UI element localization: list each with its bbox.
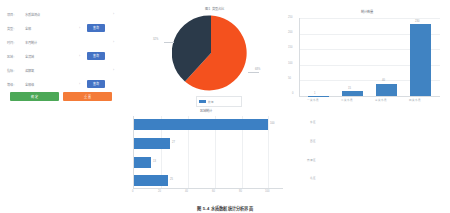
- bar-value-label: 40: [382, 79, 385, 82]
- x-tick-label: 80: [239, 190, 242, 193]
- x-axis-line: [133, 188, 283, 189]
- x-tick-label: 60: [212, 190, 215, 193]
- bar-value-label: 100: [270, 122, 274, 125]
- query-button[interactable]: 查询: [87, 52, 105, 60]
- y-category-label: 东区: [282, 120, 316, 124]
- bar-value-label: 15: [348, 87, 351, 90]
- y-tick-label: 150: [288, 46, 292, 49]
- form-value[interactable]: 全部级: [25, 82, 34, 87]
- x-tick-label: 20: [158, 190, 161, 193]
- bar[interactable]: [134, 119, 268, 130]
- form-row: 等级: 全部级 › 查询: [0, 78, 122, 90]
- form-label: 等级:: [7, 82, 15, 87]
- bar-value-label: 13: [153, 160, 156, 163]
- chevron-right-icon[interactable]: ›: [79, 82, 80, 86]
- bar[interactable]: [376, 84, 397, 97]
- chevron-right-icon[interactable]: ›: [79, 54, 80, 58]
- bar-value-label: 27: [172, 141, 175, 144]
- form-row: 区域: 全流域 › 查询: [0, 50, 122, 62]
- bar-value-label: 1: [314, 92, 315, 95]
- query-button[interactable]: 查询: [87, 24, 105, 32]
- form-row: 指标: 溶解氧 ›: [0, 64, 122, 76]
- bar[interactable]: [134, 138, 170, 149]
- y-category-label: 北区: [282, 176, 316, 180]
- bar-value-label: 230: [415, 20, 419, 23]
- submit-button[interactable]: 确 定: [10, 92, 59, 101]
- bar[interactable]: [342, 91, 363, 96]
- bar-value-label: 25: [170, 178, 173, 181]
- pie-chart-svg[interactable]: [172, 14, 250, 92]
- bar[interactable]: [134, 157, 151, 168]
- horizontal-bar-chart-panel: 区域统计 100 27 13 25 东区 西区 南港区 北区 0 20 40 6…: [96, 100, 316, 200]
- chevron-right-icon[interactable]: ›: [113, 40, 114, 44]
- form-label: 时间:: [7, 40, 15, 45]
- form-label: 区域:: [7, 54, 15, 59]
- x-category-label: 四类水质: [402, 98, 428, 102]
- form-label: 类型:: [7, 26, 15, 31]
- x-axis-line: [299, 96, 440, 97]
- y-category-label: 南港区: [282, 158, 316, 162]
- pie-callout-pass: 32%: [153, 38, 158, 41]
- x-category-label: 二类水质: [334, 98, 360, 102]
- vertical-bar-chart-panel: 统计数量 250 200 150 100 50 0 1 15 40 230 一类…: [284, 4, 450, 104]
- chevron-right-icon[interactable]: ›: [79, 26, 80, 30]
- figure-caption: 图 5-4 水质数据统计分析界面: [0, 205, 450, 211]
- y-tick-label: 200: [288, 31, 292, 34]
- vertical-bar-plot-area: 1 15 40 230: [300, 18, 440, 96]
- y-tick-label: 250: [288, 16, 292, 19]
- x-category-label: 三类水质: [368, 98, 394, 102]
- pie-chart-panel: 图1 类型占比 32% 68%: [150, 0, 280, 100]
- form-label: 项目:: [7, 12, 15, 17]
- query-form-panel: 项目: 水质监测点 › 类型: 全部 › 查询 时间: 本月统计 › 区域: 全…: [0, 0, 122, 110]
- y-tick-label: 0: [292, 92, 293, 95]
- y-tick-label: 50: [288, 77, 291, 80]
- horizontal-bar-chart-legend[interactable]: 数量: [196, 96, 242, 107]
- chevron-right-icon[interactable]: ›: [113, 12, 114, 16]
- horizontal-bar-plot-area: 100 27 13 25: [134, 116, 282, 188]
- form-label: 指标:: [7, 68, 15, 73]
- x-tick-label: 40: [185, 190, 188, 193]
- bar[interactable]: [134, 175, 168, 186]
- form-value[interactable]: 本月统计: [25, 40, 37, 45]
- bar[interactable]: [410, 24, 431, 96]
- form-row: 类型: 全部 › 查询: [0, 22, 122, 34]
- form-row: 时间: 本月统计 ›: [0, 36, 122, 48]
- y-tick-label: 100: [288, 62, 292, 65]
- form-row: 项目: 水质监测点 ›: [0, 8, 122, 20]
- pie-leader-line-left: [164, 42, 174, 43]
- pie-leader-line-right: [248, 72, 259, 73]
- chevron-right-icon[interactable]: ›: [113, 68, 114, 72]
- pie-callout-over: 68%: [255, 68, 260, 71]
- pie-chart-title: 图1 类型占比: [150, 6, 280, 11]
- x-tick-label: 0: [132, 190, 133, 193]
- form-value[interactable]: 水质监测点: [25, 12, 40, 17]
- legend-label: 数量: [208, 100, 214, 104]
- form-value[interactable]: 全部: [25, 26, 31, 31]
- form-value[interactable]: 全流域: [25, 54, 34, 59]
- vertical-bar-chart-title: 统计数量: [284, 9, 450, 14]
- x-tick-label: 100: [265, 190, 269, 193]
- horizontal-bar-chart-title: 区域统计: [96, 108, 316, 113]
- query-button[interactable]: 查询: [87, 80, 105, 88]
- y-category-label: 西区: [282, 139, 316, 143]
- legend-swatch-icon: [199, 100, 206, 103]
- form-value[interactable]: 溶解氧: [25, 68, 34, 73]
